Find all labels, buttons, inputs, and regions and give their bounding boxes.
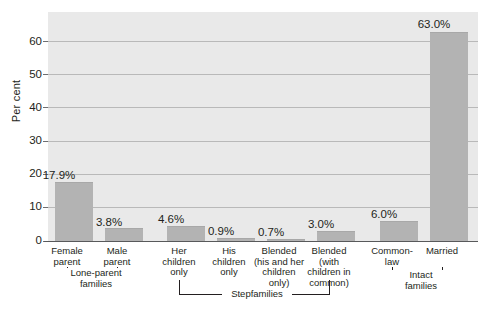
bar-chart-figure: Per cent 60 50 40 30 20 10 0 17.9% 3.8% … — [0, 0, 497, 325]
bar-value-married: 63.0% — [404, 18, 464, 30]
y-axis-tick-labels: 60 50 40 30 20 10 0 — [16, 0, 42, 325]
category-label-male-parent: Male parent — [89, 246, 145, 267]
category-label-female-parent: Female parent — [39, 246, 95, 267]
gridline-60 — [48, 41, 478, 42]
y-tick-50: 50 — [18, 69, 42, 81]
gridline-20 — [48, 174, 478, 175]
y-tick-10: 10 — [18, 201, 42, 213]
gridline-50 — [48, 74, 478, 75]
bracket-stepfamilies-right-tick — [329, 280, 330, 295]
category-label-married: Married — [414, 246, 470, 257]
x-axis-baseline — [44, 241, 478, 242]
bar-married — [430, 32, 468, 241]
bracket-label-intact-families: Intact families — [387, 270, 455, 291]
bar-male-parent — [105, 228, 143, 241]
bar-female-parent — [55, 182, 93, 241]
bracket-label-lone-parent-families: Lone-parent families — [52, 268, 140, 289]
bar-value-blended-common: 3.0% — [291, 218, 351, 230]
bar-value-common-law: 6.0% — [354, 208, 414, 220]
bracket-label-stepfamilies: Stepfamilies — [222, 289, 292, 300]
gridline-40 — [48, 107, 478, 108]
bar-value-female-parent: 17.9% — [29, 169, 89, 181]
category-label-her-children: Her children only — [151, 246, 207, 278]
bar-blended-with-common — [317, 231, 355, 241]
bar-value-her-children: 4.6% — [141, 213, 201, 225]
plot-area — [48, 12, 478, 241]
category-label-common-law: Common- law — [364, 246, 420, 267]
bar-value-male-parent: 3.8% — [79, 216, 139, 228]
y-tick-60: 60 — [18, 36, 42, 48]
y-tick-40: 40 — [18, 102, 42, 114]
bar-common-law — [380, 221, 418, 241]
y-tick-30: 30 — [18, 135, 42, 147]
bracket-stepfamilies-left-tick — [179, 280, 180, 295]
gridline-30 — [48, 141, 478, 142]
y-tick-0: 0 — [18, 235, 42, 247]
